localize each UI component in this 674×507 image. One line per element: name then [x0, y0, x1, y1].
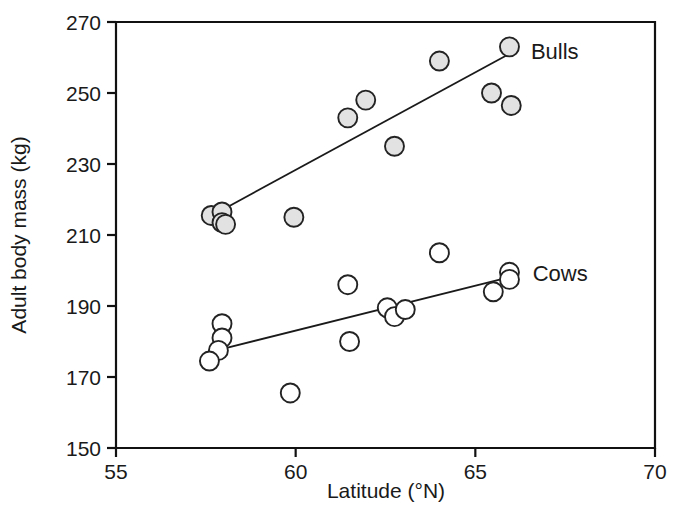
series-labels: BullsCows — [531, 39, 588, 286]
data-point-cows — [338, 275, 357, 294]
data-point-cows — [500, 270, 519, 289]
x-tick-label-55: 55 — [104, 460, 127, 483]
y-axis-tick-labels: 150170190210230250270 — [66, 11, 101, 460]
data-point-cows — [200, 352, 219, 371]
data-point-bulls — [502, 96, 521, 115]
data-point-bulls — [284, 208, 303, 227]
data-point-cows — [430, 243, 449, 262]
x-axis-ticks — [116, 448, 655, 457]
data-point-bulls — [216, 215, 235, 234]
data-point-cows — [396, 300, 415, 319]
data-point-bulls — [430, 52, 449, 71]
y-tick-label-150: 150 — [66, 437, 101, 460]
x-tick-label-70: 70 — [643, 460, 666, 483]
y-tick-label-190: 190 — [66, 295, 101, 318]
data-point-bulls — [482, 84, 501, 103]
axis-frame — [116, 22, 655, 448]
data-point-cows — [484, 282, 503, 301]
x-axis-title: Latitude (°N) — [327, 479, 445, 502]
fit-line-bulls — [218, 56, 505, 212]
y-axis-title: Adult body mass (kg) — [7, 136, 30, 333]
y-tick-label-250: 250 — [66, 82, 101, 105]
fit-line-cows — [217, 278, 508, 351]
x-tick-label-65: 65 — [464, 460, 487, 483]
plot-canvas: 150170190210230250270 55606570 BullsCows… — [0, 0, 674, 507]
series-label-bulls: Bulls — [531, 39, 579, 64]
y-tick-label-170: 170 — [66, 366, 101, 389]
data-point-bulls — [385, 137, 404, 156]
x-tick-label-60: 60 — [284, 460, 307, 483]
data-point-cows — [281, 383, 300, 402]
scatter-plot-figure: 150170190210230250270 55606570 BullsCows… — [0, 0, 674, 507]
y-tick-label-270: 270 — [66, 11, 101, 34]
data-points — [200, 37, 521, 402]
y-tick-label-230: 230 — [66, 153, 101, 176]
plot-frame — [116, 22, 655, 448]
y-axis-ticks — [107, 22, 116, 448]
series-label-cows: Cows — [533, 261, 588, 286]
data-point-bulls — [356, 91, 375, 110]
data-point-cows — [340, 332, 359, 351]
y-tick-label-210: 210 — [66, 224, 101, 247]
data-point-bulls — [338, 108, 357, 127]
data-point-bulls — [500, 37, 519, 56]
